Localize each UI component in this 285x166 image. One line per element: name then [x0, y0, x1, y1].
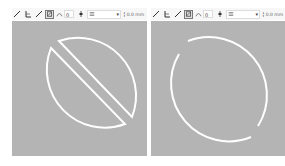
- angle-tool-icon: [163, 10, 171, 18]
- freehand-tool-icon: [35, 10, 43, 18]
- property-bar: 0 ▾ ╏ 0.0 mm: [151, 8, 285, 20]
- line-tool-button[interactable]: [151, 10, 160, 19]
- chevron-down-icon: ▾: [116, 11, 119, 17]
- node-icon: [77, 10, 85, 18]
- broken-circle-shape[interactable]: [151, 21, 285, 156]
- tolerance-spinner[interactable]: 0: [195, 10, 213, 18]
- left-panel: 0 ▾ ╏ 0.0 mm: [12, 0, 147, 166]
- line-tool-button[interactable]: [12, 10, 21, 19]
- node-icon: [216, 10, 224, 18]
- right-panel: 0 ▾ ╏ 0.0 mm: [151, 0, 285, 166]
- split-circle-shape[interactable]: [12, 21, 147, 156]
- outline-width-icon: ╏: [123, 12, 126, 17]
- freehand-tool-icon: [174, 10, 182, 18]
- tolerance-icon: [56, 11, 63, 18]
- tolerance-value[interactable]: 0: [64, 10, 74, 18]
- node-button[interactable]: [76, 10, 85, 19]
- outline-width-icon: ╏: [262, 12, 265, 17]
- freehand-tool-button[interactable]: [173, 10, 182, 19]
- chevron-down-icon: ▾: [255, 11, 258, 17]
- freehand-tool-button[interactable]: [34, 10, 43, 19]
- property-bar: 0 ▾ ╏ 0.0 mm: [12, 8, 147, 20]
- node-button[interactable]: [215, 10, 224, 19]
- auto-close-toggle[interactable]: [45, 10, 54, 19]
- outline-style-icon: [228, 11, 234, 17]
- line-tool-icon: [152, 10, 160, 18]
- auto-close-icon: [185, 10, 192, 18]
- outline-width-field[interactable]: ╏ 0.0 mm: [262, 12, 283, 17]
- drawing-canvas[interactable]: [151, 21, 285, 156]
- outline-style-dropdown[interactable]: ▾: [87, 10, 121, 19]
- tolerance-spinner[interactable]: 0: [56, 10, 74, 18]
- tolerance-value[interactable]: 0: [203, 10, 213, 18]
- outline-style-icon: [89, 11, 95, 17]
- outline-width-field[interactable]: ╏ 0.0 mm: [123, 12, 144, 17]
- outline-width-value: 0.0 mm: [127, 12, 144, 17]
- outline-width-value: 0.0 mm: [266, 12, 283, 17]
- line-tool-icon: [13, 10, 21, 18]
- tolerance-icon: [195, 11, 202, 18]
- angle-tool-icon: [24, 10, 32, 18]
- outline-style-dropdown[interactable]: ▾: [226, 10, 260, 19]
- angle-tool-button[interactable]: [23, 10, 32, 19]
- drawing-canvas[interactable]: [12, 21, 147, 156]
- auto-close-icon: [46, 10, 53, 18]
- angle-tool-button[interactable]: [162, 10, 171, 19]
- auto-close-toggle[interactable]: [184, 10, 193, 19]
